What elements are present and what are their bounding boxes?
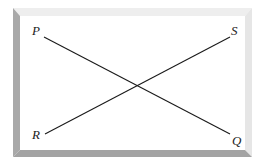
point-label-r: R: [31, 127, 40, 142]
frame-bottom-edge: [13, 150, 252, 157]
point-label-q: Q: [232, 133, 242, 148]
frame-top-edge: [13, 8, 252, 16]
diagram-canvas: P Q R S: [0, 0, 265, 165]
point-label-p: P: [31, 23, 40, 38]
frame-right-edge: [245, 8, 252, 157]
point-label-s: S: [231, 23, 238, 38]
frame-left-edge: [13, 8, 20, 157]
